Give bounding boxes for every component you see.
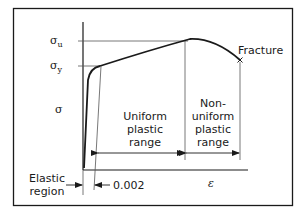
epsilon-axis-label: ε bbox=[208, 177, 214, 190]
sigma-y-label: σy bbox=[50, 59, 63, 74]
stress-strain-diagram: σu σy σ ε Fracture Uniform plastic range… bbox=[0, 0, 306, 219]
nonuniform-label-4: range bbox=[197, 136, 229, 149]
elastic-label-1: Elastic bbox=[29, 172, 65, 185]
uniform-label-1: Uniform bbox=[123, 110, 167, 123]
offset-label: 0.002 bbox=[113, 179, 145, 192]
uniform-label-2: plastic bbox=[127, 123, 163, 136]
offset-line bbox=[94, 66, 101, 190]
sigma-u-label: σu bbox=[50, 34, 63, 49]
uniform-label-3: range bbox=[129, 136, 161, 149]
sigma-axis-label: σ bbox=[55, 103, 63, 116]
fracture-label: Fracture bbox=[238, 44, 283, 57]
nonuniform-label-2: uniform bbox=[192, 110, 235, 123]
nonuniform-label-1: Non- bbox=[200, 97, 226, 110]
nonuniform-label-3: plastic bbox=[195, 123, 231, 136]
fracture-x-icon bbox=[238, 58, 243, 63]
elastic-label-2: region bbox=[30, 185, 65, 198]
